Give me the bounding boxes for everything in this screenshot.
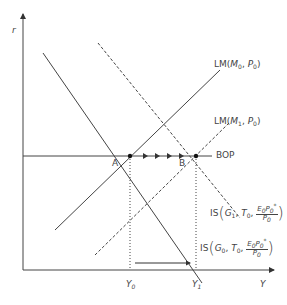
lm1-curve xyxy=(95,122,230,255)
point-b-label: B xyxy=(179,159,185,168)
y1-tick-label: Y1 xyxy=(192,280,201,290)
bop-label: BOP xyxy=(216,151,235,160)
lm0-label: LM(M0, P0) xyxy=(214,60,260,70)
lm0-curve xyxy=(55,70,220,230)
lm1-label: LM(M1, P0) xyxy=(214,117,260,127)
point-b-dot xyxy=(194,154,198,158)
x-axis-label: Y xyxy=(260,280,266,289)
y-axis-label: r xyxy=(12,26,16,35)
bop-arrow-icon xyxy=(143,153,148,159)
y0-tick-label: Y0 xyxy=(126,280,135,290)
bop-arrow-icon xyxy=(155,153,160,159)
is0-label: IS(G0, T0, E0P0*P0) xyxy=(200,238,274,258)
diagram-canvas xyxy=(0,0,287,305)
bop-arrow-icon xyxy=(167,153,172,159)
is-lm-bop-diagram: r Y LM(M0, P0) LM(M1, P0) BOP IS(G1, T0,… xyxy=(0,0,287,305)
point-a-label: A xyxy=(112,159,118,168)
is1-label: IS(G1, T0, E0P0*P0) xyxy=(210,203,284,223)
is0-curve xyxy=(43,53,202,283)
point-a-dot xyxy=(128,154,132,158)
